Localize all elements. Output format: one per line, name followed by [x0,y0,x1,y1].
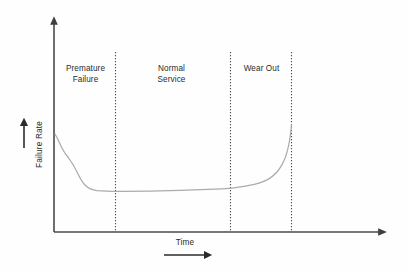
x-axis-label: Time [145,238,225,247]
y-axis-label: Failure Rate [35,105,44,185]
failure-rate-curve [55,125,292,191]
zone-label-premature-failure: Premature Failure [58,63,113,85]
bathtub-curve-figure: Premature Failure Normal Service Wear Ou… [0,0,407,272]
zone-label-normal-service: Normal Service [144,63,199,85]
zone-label-wear-out: Wear Out [234,63,289,74]
plot-area [0,0,407,272]
